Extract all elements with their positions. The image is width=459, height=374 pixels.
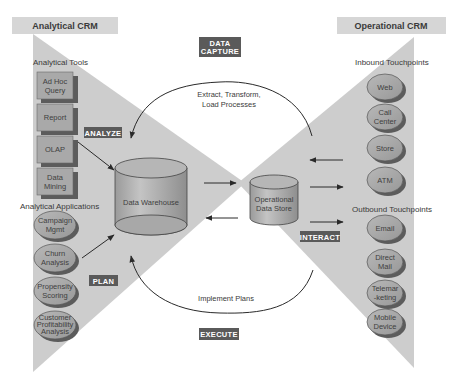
analytical-tools-label: Analytical Tools xyxy=(33,58,88,67)
analytical-crm-title: Analytical CRM xyxy=(32,21,98,31)
ods-label-line2: Data Store xyxy=(256,204,292,213)
execute-tag: EXECUTE xyxy=(199,328,239,340)
interact-tag: INTERACT xyxy=(300,231,340,242)
implement-label: Implement Plans xyxy=(198,294,254,303)
tool-report[interactable]: Report xyxy=(37,104,78,135)
node-label-line: Analysis xyxy=(41,327,69,336)
svg-text:INTERACT: INTERACT xyxy=(300,233,340,242)
analyze-tag: ANALYZE xyxy=(84,127,122,138)
operational-data-store[interactable]: Operational Data Store xyxy=(250,175,298,225)
svg-text:PLAN: PLAN xyxy=(93,277,115,286)
node-label-line: Scoring xyxy=(42,291,67,300)
node-label-line: -keting xyxy=(374,293,397,302)
node-label-line: Report xyxy=(44,113,67,122)
node-label-line: Mail xyxy=(378,262,392,271)
node-label-line: Mgmt xyxy=(46,225,66,234)
outbound-touchpoints-label: Outbound Touchpoints xyxy=(352,205,432,214)
etl-label-line1: Extract, Transform, xyxy=(197,90,260,99)
node-label-line: Store xyxy=(376,144,394,153)
plan-tag: PLAN xyxy=(89,275,118,286)
tool-data-mining[interactable]: DataMining xyxy=(37,168,78,199)
node-label-line: Data xyxy=(47,173,64,182)
analytical-crm-header: Analytical CRM xyxy=(12,17,118,34)
node-label-line: Web xyxy=(377,83,392,92)
node-label-line: Center xyxy=(374,117,397,126)
node-label-line: Query xyxy=(45,86,66,95)
data-warehouse-label: Data Warehouse xyxy=(123,198,179,207)
node-label-line: OLAP xyxy=(45,145,65,154)
crm-diagram: Analytical CRM Operational CRM DATA CAPT… xyxy=(0,0,459,374)
node-label-line: Telemar xyxy=(372,284,399,293)
data-capture-tag: DATA CAPTURE xyxy=(199,37,241,57)
node-label-line: Campaign xyxy=(38,216,72,225)
node-label-line: Churn xyxy=(45,249,65,258)
etl-label-line2: Load Processes xyxy=(202,100,256,109)
node-label-line: Email xyxy=(376,224,395,233)
node-label-line: Mining xyxy=(44,182,66,191)
node-label-line: Ad Hoc xyxy=(43,77,68,86)
tool-ad-hoc-query[interactable]: Ad HocQuery xyxy=(37,72,78,103)
node-label-line: Call xyxy=(379,108,392,117)
node-label-line: Mobile xyxy=(374,313,396,322)
data-warehouse[interactable]: Data Warehouse xyxy=(115,158,187,235)
implement-arc xyxy=(131,256,313,313)
inbound-touchpoints-label: Inbound Touchpoints xyxy=(355,58,429,67)
operational-crm-title: Operational CRM xyxy=(354,21,427,31)
analytical-applications-label: Analytical Applications xyxy=(20,202,99,211)
node-label-line: Propensity xyxy=(37,282,73,291)
node-label-line: Analysis xyxy=(41,258,69,267)
node-label-line: Direct xyxy=(375,253,396,262)
ods-label-line1: Operational xyxy=(255,195,294,204)
svg-text:EXECUTE: EXECUTE xyxy=(200,330,238,339)
tool-olap[interactable]: OLAP xyxy=(37,136,78,167)
svg-text:CAPTURE: CAPTURE xyxy=(201,47,239,56)
node-label-line: ATM xyxy=(377,176,392,185)
svg-text:ANALYZE: ANALYZE xyxy=(85,129,122,138)
operational-crm-header: Operational CRM xyxy=(337,17,446,34)
node-label-line: Device xyxy=(374,322,397,331)
